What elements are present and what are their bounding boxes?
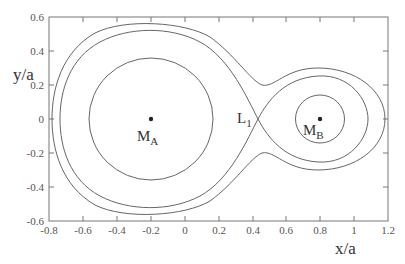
svg-text:0: 0 xyxy=(39,113,45,125)
outer-contour xyxy=(52,24,385,215)
svg-text:-0.6: -0.6 xyxy=(74,224,92,236)
mass-a-point xyxy=(149,117,153,121)
y-tick-labels: 0.6 0.4 0.2 0 -0.2 -0.4 -0.6 xyxy=(27,11,45,227)
svg-text:-0.6: -0.6 xyxy=(27,215,45,227)
svg-text:0: 0 xyxy=(182,224,188,236)
x-tick-labels: -0.8 -0.6 -0.4 -0.2 0 0.2 0.4 0.6 0.8 1 … xyxy=(40,224,395,236)
svg-text:-0.2: -0.2 xyxy=(142,224,159,236)
mass-a-label: MA xyxy=(137,128,158,147)
svg-text:0.8: 0.8 xyxy=(313,224,327,236)
svg-text:0.4: 0.4 xyxy=(246,224,260,236)
svg-text:-0.2: -0.2 xyxy=(27,147,44,159)
svg-text:0.6: 0.6 xyxy=(279,224,293,236)
svg-text:0.6: 0.6 xyxy=(30,11,44,23)
y-axis-ticks xyxy=(49,51,388,187)
y-axis-label: y/a xyxy=(13,65,34,84)
svg-text:0.4: 0.4 xyxy=(30,45,44,57)
svg-text:1.2: 1.2 xyxy=(381,224,395,236)
x-axis-label: x/a xyxy=(335,239,356,258)
mass-b-point xyxy=(318,117,322,121)
x-axis-ticks xyxy=(83,17,354,221)
svg-text:0.2: 0.2 xyxy=(212,224,226,236)
l1-label: L1 xyxy=(237,110,252,129)
svg-text:-0.4: -0.4 xyxy=(27,181,45,193)
svg-text:-0.4: -0.4 xyxy=(108,224,126,236)
plot-frame xyxy=(49,17,388,221)
mass-b-label: MB xyxy=(303,122,324,141)
contours xyxy=(52,24,385,215)
roche-potential-contour-plot: -0.8 -0.6 -0.4 -0.2 0 0.2 0.4 0.6 0.8 1 … xyxy=(0,0,405,264)
svg-text:1: 1 xyxy=(351,224,357,236)
